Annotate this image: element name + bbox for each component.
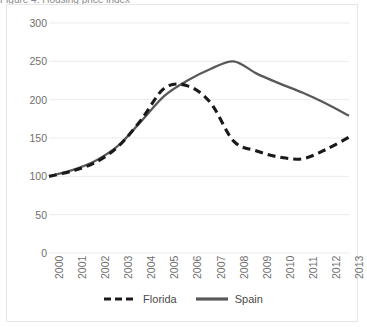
x-tick-label: 2002 <box>99 256 111 279</box>
legend-item-florida[interactable]: Florida <box>103 293 177 305</box>
legend-item-spain[interactable]: Spain <box>195 293 263 305</box>
x-tick-label: 2013 <box>353 256 365 279</box>
x-tick-label: 2001 <box>76 256 88 279</box>
x-tick-label: 2003 <box>122 256 134 279</box>
x-tick-label: 2000 <box>53 256 65 279</box>
chart-card: 050100150200250300 200020012002200320042… <box>6 4 358 322</box>
dashed-line-swatch-icon <box>103 294 137 304</box>
chart-legend: Florida Spain <box>7 287 359 311</box>
x-tick-label: 2007 <box>215 256 227 279</box>
solid-line-swatch-icon <box>195 294 229 304</box>
plot-area: 050100150200250300 200020012002200320042… <box>7 5 359 283</box>
x-tick-label: 2010 <box>284 256 296 279</box>
x-axis-tick-labels: 2000200120022003200420052006200720082009… <box>7 5 359 283</box>
x-tick-label: 2008 <box>238 256 250 279</box>
x-tick-label: 2011 <box>307 256 319 279</box>
x-tick-label: 2006 <box>191 256 203 279</box>
x-tick-label: 2005 <box>168 256 180 279</box>
legend-label-florida: Florida <box>143 293 177 305</box>
x-tick-label: 2012 <box>330 256 342 279</box>
legend-label-spain: Spain <box>235 293 263 305</box>
x-tick-label: 2004 <box>145 256 157 279</box>
x-tick-label: 2009 <box>261 256 273 279</box>
